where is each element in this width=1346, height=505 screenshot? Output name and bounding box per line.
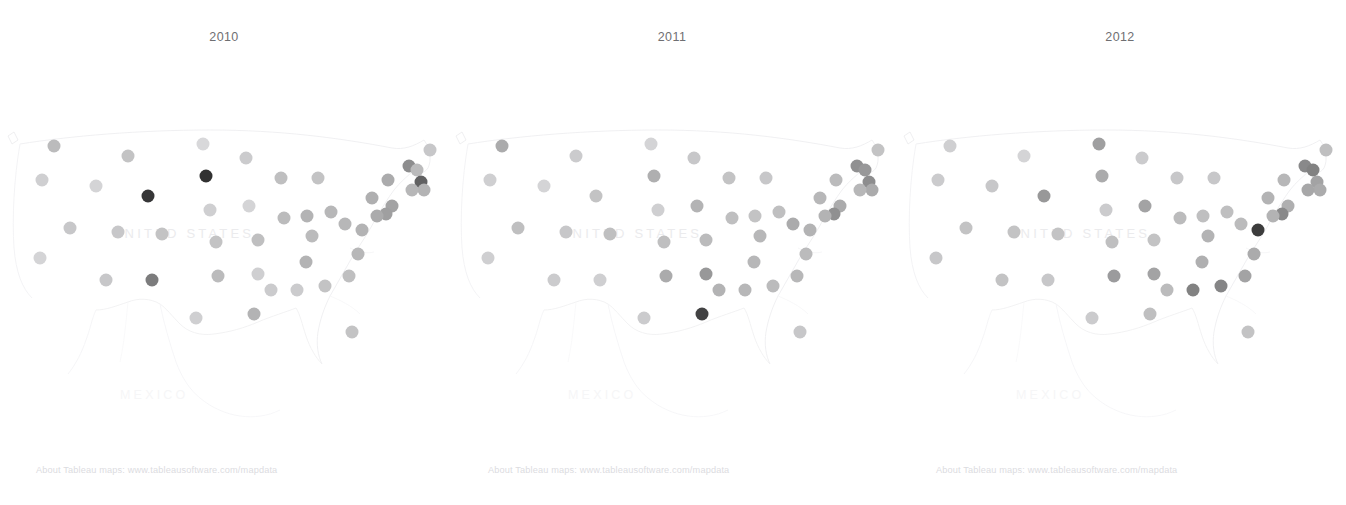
map-data-point[interactable] bbox=[713, 284, 726, 297]
map-data-point[interactable] bbox=[252, 234, 265, 247]
map-data-point[interactable] bbox=[749, 210, 762, 223]
map-data-point[interactable] bbox=[406, 184, 419, 197]
map-data-point[interactable] bbox=[197, 138, 210, 151]
map-data-point[interactable] bbox=[100, 274, 113, 287]
map-data-point[interactable] bbox=[512, 222, 525, 235]
map-data-point[interactable] bbox=[265, 284, 278, 297]
map-data-point[interactable] bbox=[48, 140, 61, 153]
map-data-point[interactable] bbox=[696, 308, 709, 321]
map-data-point[interactable] bbox=[604, 228, 617, 241]
map-data-point[interactable] bbox=[339, 218, 352, 231]
data-dots-layer[interactable] bbox=[448, 118, 896, 438]
map-data-point[interactable] bbox=[382, 174, 395, 187]
map-attribution[interactable]: About Tableau maps: www.tableausoftware.… bbox=[488, 465, 729, 475]
map-data-point[interactable] bbox=[210, 236, 223, 249]
map-data-point[interactable] bbox=[930, 252, 943, 265]
map-data-point[interactable] bbox=[691, 200, 704, 213]
map-data-point[interactable] bbox=[1161, 284, 1174, 297]
map-data-point[interactable] bbox=[1196, 256, 1209, 269]
map-data-point[interactable] bbox=[1248, 248, 1261, 261]
map-data-point[interactable] bbox=[1235, 218, 1248, 231]
map-data-point[interactable] bbox=[278, 212, 291, 225]
map-data-point[interactable] bbox=[240, 152, 253, 165]
map-data-point[interactable] bbox=[204, 204, 217, 217]
map-data-point[interactable] bbox=[1139, 200, 1152, 213]
map-data-point[interactable] bbox=[944, 140, 957, 153]
map-data-point[interactable] bbox=[1144, 308, 1157, 321]
map-panel[interactable]: 2010 UNITED STATES MEXICO A bbox=[0, 0, 448, 505]
map-data-point[interactable] bbox=[200, 170, 213, 183]
map-data-point[interactable] bbox=[352, 248, 365, 261]
map-data-point[interactable] bbox=[1239, 270, 1252, 283]
map-data-point[interactable] bbox=[325, 206, 338, 219]
map-data-point[interactable] bbox=[986, 180, 999, 193]
map-data-point[interactable] bbox=[346, 326, 359, 339]
map-data-point[interactable] bbox=[560, 226, 573, 239]
map-data-point[interactable] bbox=[156, 228, 169, 241]
map-data-point[interactable] bbox=[300, 256, 313, 269]
map-data-point[interactable] bbox=[212, 270, 225, 283]
map-data-point[interactable] bbox=[996, 274, 1009, 287]
map-data-point[interactable] bbox=[366, 192, 379, 205]
map-data-point[interactable] bbox=[570, 150, 583, 163]
map-data-point[interactable] bbox=[34, 252, 47, 265]
map-data-point[interactable] bbox=[1148, 234, 1161, 247]
map-data-point[interactable] bbox=[1018, 150, 1031, 163]
map-data-point[interactable] bbox=[496, 140, 509, 153]
map-data-point[interactable] bbox=[1252, 224, 1265, 237]
map-data-point[interactable] bbox=[1242, 326, 1255, 339]
map-data-point[interactable] bbox=[638, 312, 651, 325]
map-data-point[interactable] bbox=[658, 236, 671, 249]
map-data-point[interactable] bbox=[791, 270, 804, 283]
map-data-point[interactable] bbox=[866, 184, 879, 197]
map-data-point[interactable] bbox=[748, 256, 761, 269]
map-data-point[interactable] bbox=[356, 224, 369, 237]
map-data-point[interactable] bbox=[819, 210, 832, 223]
map-data-point[interactable] bbox=[800, 248, 813, 261]
map-data-point[interactable] bbox=[482, 252, 495, 265]
map-data-point[interactable] bbox=[90, 180, 103, 193]
map-data-point[interactable] bbox=[590, 190, 603, 203]
map-data-point[interactable] bbox=[243, 200, 256, 213]
map-data-point[interactable] bbox=[1171, 172, 1184, 185]
map-data-point[interactable] bbox=[594, 274, 607, 287]
map-data-point[interactable] bbox=[1086, 312, 1099, 325]
map-data-point[interactable] bbox=[306, 230, 319, 243]
map-data-point[interactable] bbox=[1136, 152, 1149, 165]
map-data-point[interactable] bbox=[739, 284, 752, 297]
map-data-point[interactable] bbox=[1267, 210, 1280, 223]
map-panel[interactable]: 2012 UNITED STATES MEXICO A bbox=[896, 0, 1344, 505]
map-data-point[interactable] bbox=[773, 206, 786, 219]
map-data-point[interactable] bbox=[319, 280, 332, 293]
map-attribution[interactable]: About Tableau maps: www.tableausoftware.… bbox=[36, 465, 277, 475]
map-data-point[interactable] bbox=[1262, 192, 1275, 205]
map-attribution[interactable]: About Tableau maps: www.tableausoftware.… bbox=[936, 465, 1177, 475]
map-data-point[interactable] bbox=[1093, 138, 1106, 151]
map-data-point[interactable] bbox=[726, 212, 739, 225]
map-data-point[interactable] bbox=[418, 184, 431, 197]
map-data-point[interactable] bbox=[1208, 172, 1221, 185]
map-data-point[interactable] bbox=[484, 174, 497, 187]
map-data-point[interactable] bbox=[854, 184, 867, 197]
map-canvas[interactable]: UNITED STATES MEXICO bbox=[448, 118, 896, 438]
map-data-point[interactable] bbox=[723, 172, 736, 185]
map-data-point[interactable] bbox=[700, 234, 713, 247]
map-data-point[interactable] bbox=[1278, 174, 1291, 187]
map-data-point[interactable] bbox=[1174, 212, 1187, 225]
map-data-point[interactable] bbox=[36, 174, 49, 187]
map-data-point[interactable] bbox=[1314, 184, 1327, 197]
map-data-point[interactable] bbox=[1215, 280, 1228, 293]
map-data-point[interactable] bbox=[1042, 274, 1055, 287]
map-data-point[interactable] bbox=[645, 138, 658, 151]
map-data-point[interactable] bbox=[1197, 210, 1210, 223]
map-data-point[interactable] bbox=[1038, 190, 1051, 203]
map-data-point[interactable] bbox=[301, 210, 314, 223]
map-data-point[interactable] bbox=[64, 222, 77, 235]
map-data-point[interactable] bbox=[252, 268, 265, 281]
map-data-point[interactable] bbox=[190, 312, 203, 325]
map-data-point[interactable] bbox=[312, 172, 325, 185]
map-data-point[interactable] bbox=[648, 170, 661, 183]
map-data-point[interactable] bbox=[652, 204, 665, 217]
map-data-point[interactable] bbox=[1108, 270, 1121, 283]
map-data-point[interactable] bbox=[872, 144, 885, 157]
